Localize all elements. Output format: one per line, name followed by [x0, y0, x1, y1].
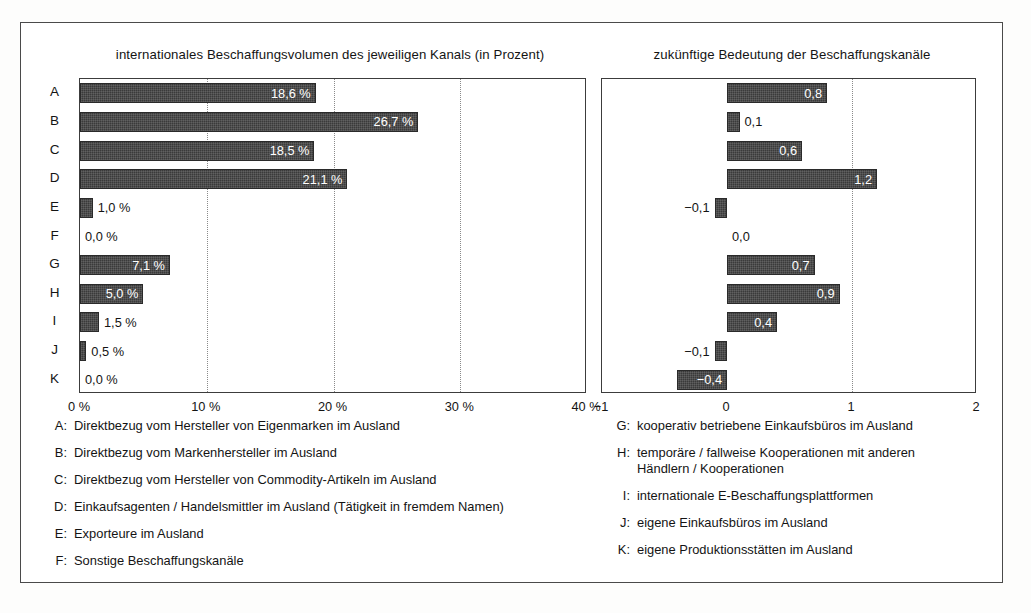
plot-area-right: 0,80,10,61,2−0,10,00,70,90,4−0,1−0,4 [601, 78, 976, 393]
category-letter: E [38, 199, 71, 215]
legend-item: I:internationale E-Beschaffungsplattform… [608, 488, 988, 504]
bar-value-label: 18,5 % [80, 143, 314, 158]
chart-title-left: internationales Beschaffungsvolumen des … [60, 47, 600, 62]
bar-value-label: 0,8 [727, 86, 827, 101]
axis-tick-label: 2 [972, 398, 979, 416]
legend-item-key: D: [45, 499, 74, 515]
bar-value-label: 26,7 % [80, 114, 418, 129]
legend-item-text: Einkaufsagenten / Handelsmittler im Ausl… [74, 499, 590, 515]
category-letters-column: ABCDEFGHIJK [38, 78, 71, 393]
legend-right: G:kooperativ betriebene Einkaufsbüros im… [608, 418, 988, 569]
axis-tick-label: 1 [847, 398, 854, 416]
legend-item: J:eigene Einkaufsbüros im Ausland [608, 515, 988, 531]
bar-value-label: −0,1 [602, 344, 710, 359]
legend-item-key: I: [608, 488, 637, 504]
gridline [460, 79, 461, 392]
bar-value-label: 0,0 % [85, 229, 118, 244]
legend-left: A:Direktbezug vom Hersteller von Eigenma… [45, 418, 590, 580]
bar-value-label: 0,9 [727, 286, 840, 301]
chart-title-right: zukünftige Bedeutung der Beschaffungskan… [606, 47, 978, 62]
legend-item-text: eigene Produktionsstätten im Ausland [637, 542, 988, 558]
category-letter: C [38, 142, 71, 158]
legend-item: C:Direktbezug vom Hersteller von Commodi… [45, 472, 590, 488]
bar-value-label: −0,4 [677, 372, 727, 387]
legend-item-key: E: [45, 526, 74, 542]
x-axis-right: −1012 [0, 398, 1031, 416]
category-letter: A [38, 84, 71, 100]
category-letter: H [38, 285, 71, 301]
bar-value-label: 0,4 [727, 315, 777, 330]
legend-item-key: A: [45, 418, 74, 434]
legend-item: E:Exporteure im Ausland [45, 526, 590, 542]
category-letter: K [38, 371, 71, 387]
legend-item-key: F: [45, 553, 74, 569]
bar-value-label: 0,5 % [91, 344, 124, 359]
bar [80, 312, 99, 332]
bar-value-label: 5,0 % [80, 286, 143, 301]
legend-item-text: eigene Einkaufsbüros im Ausland [637, 515, 988, 531]
bar-value-label: 18,6 % [80, 86, 316, 101]
bar [715, 198, 728, 218]
legend-item: F:Sonstige Beschaffungskanäle [45, 553, 590, 569]
category-letter: J [38, 342, 71, 358]
legend-item: K:eigene Produktionsstätten im Ausland [608, 542, 988, 558]
legend-item-key: G: [608, 418, 637, 434]
bar-value-label: 1,2 [727, 172, 877, 187]
bar [80, 198, 93, 218]
category-letter: F [38, 228, 71, 244]
legend-item-text: Exporteure im Ausland [74, 526, 590, 542]
bar-value-label: 0,7 [727, 258, 815, 273]
category-letter: I [38, 313, 71, 329]
legend-item: B:Direktbezug vom Markenhersteller im Au… [45, 445, 590, 461]
axis-tick-label: 0 [722, 398, 729, 416]
legend-item-text: Direktbezug vom Hersteller von Commodity… [74, 472, 590, 488]
legend-item-text: temporäre / fallweise Kooperationen mit … [637, 445, 988, 477]
figure-root: internationales Beschaffungsvolumen des … [0, 0, 1031, 613]
axis-tick-label: −1 [594, 398, 609, 416]
bar [715, 341, 728, 361]
category-letter: D [38, 170, 71, 186]
legend-item-text: Sonstige Beschaffungskanäle [74, 553, 590, 569]
legend-item: H:temporäre / fallweise Kooperationen mi… [608, 445, 988, 477]
legend-item-key: H: [608, 445, 637, 477]
bar [80, 341, 86, 361]
legend-item: A:Direktbezug vom Hersteller von Eigenma… [45, 418, 590, 434]
bar [727, 112, 740, 132]
bar-value-label: 0,1 [745, 114, 763, 129]
legend-item-text: Direktbezug vom Markenhersteller im Ausl… [74, 445, 590, 461]
legend-item-key: C: [45, 472, 74, 488]
legend-item-key: K: [608, 542, 637, 558]
category-letter: B [38, 113, 71, 129]
bar-value-label: 1,0 % [98, 200, 131, 215]
bar-value-label: 0,0 [732, 229, 750, 244]
bar-value-label: 0,6 [727, 143, 802, 158]
bar-value-label: 1,5 % [104, 315, 137, 330]
legend-item-text-continued: Händlern / Kooperationen [637, 461, 988, 477]
legend-item-text: Direktbezug vom Hersteller von Eigenmark… [74, 418, 590, 434]
legend-item-text: kooperativ betriebene Einkaufsbüros im A… [637, 418, 988, 434]
legend-item-key: J: [608, 515, 637, 531]
bar-value-label: 21,1 % [80, 172, 347, 187]
bar-value-label: 7,1 % [80, 258, 170, 273]
category-letter: G [38, 256, 71, 272]
bar-value-label: 0,0 % [85, 372, 118, 387]
plot-area-left: 18,6 %26,7 %18,5 %21,1 %1,0 %0,0 %7,1 %5… [79, 78, 586, 393]
gridline [852, 79, 853, 392]
legend-item-text: internationale E-Beschaffungsplattformen [637, 488, 988, 504]
bar-value-label: −0,1 [602, 200, 710, 215]
legend-item: G:kooperativ betriebene Einkaufsbüros im… [608, 418, 988, 434]
legend-item: D:Einkaufsagenten / Handelsmittler im Au… [45, 499, 590, 515]
legend-item-key: B: [45, 445, 74, 461]
